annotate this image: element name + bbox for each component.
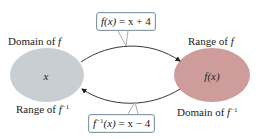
forward-callout-pointer xyxy=(118,31,128,46)
function-rhs: = x − 4 xyxy=(116,117,150,129)
label-var: f xyxy=(58,35,61,47)
forward-function-callout: f(x) = x + 4 xyxy=(96,12,156,31)
label-text: Range of xyxy=(188,35,231,47)
forward-mapping-arrow xyxy=(81,46,180,62)
inverse-function-callout: f−1(x) = x − 4 xyxy=(88,114,155,133)
label-sup: −1 xyxy=(62,103,69,111)
domain-of-f-inverse-label: Domain of f−1 xyxy=(177,107,238,118)
function-arg: (x) xyxy=(104,117,116,129)
domain-of-f-label: Domain of f xyxy=(8,36,61,47)
function-sup: −1 xyxy=(96,117,103,125)
label-var: f xyxy=(231,35,234,47)
label-text: Domain of xyxy=(177,106,227,118)
inverse-callout-pointer xyxy=(128,102,138,114)
function-rhs: = x + 4 xyxy=(116,15,150,27)
inverse-mapping-arrow xyxy=(82,89,180,103)
label-text: Range of xyxy=(16,103,59,115)
label-text: Domain of xyxy=(8,35,58,47)
inverse-function-diagram: Domain of f Range of f−1 x Range of f Do… xyxy=(0,0,260,139)
label-sup: −1 xyxy=(230,106,237,114)
domain-element-x: x xyxy=(44,71,49,82)
function-lhs: f(x) xyxy=(101,15,116,27)
range-of-f-inverse-label: Range of f−1 xyxy=(16,104,69,115)
range-element-fx: f(x) xyxy=(204,71,219,82)
range-of-f-label: Range of f xyxy=(188,36,234,47)
